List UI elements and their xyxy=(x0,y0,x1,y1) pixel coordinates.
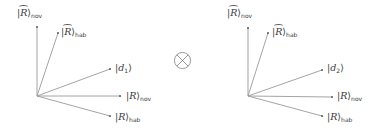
arrow-right-r-hab xyxy=(248,96,322,116)
arrow-left-r-tilde-hab xyxy=(37,33,58,96)
arrow-left-d1 xyxy=(37,69,110,96)
right-vector-diagram xyxy=(248,28,332,116)
ket-subscript: hab xyxy=(341,116,352,123)
label-right-r-tilde-hab: |R⟩hab xyxy=(272,27,297,38)
arrow-right-r-nov xyxy=(248,96,332,97)
tensor-product-icon xyxy=(173,51,192,70)
ket-subscript: 1 xyxy=(124,67,128,74)
ket-subscript: hab xyxy=(75,31,86,38)
label-left-d1: |d1⟩ xyxy=(115,63,132,74)
ket-symbol: R xyxy=(330,111,337,122)
ket-symbol: R xyxy=(275,27,282,37)
ket-subscript: 2 xyxy=(336,67,340,74)
label-left-r-nov: |R⟩nov xyxy=(126,91,151,102)
ket-symbol: R xyxy=(20,8,27,18)
arrow-right-r-tilde-hab xyxy=(248,33,268,96)
left-vector-diagram xyxy=(37,27,120,116)
ket-symbol: R xyxy=(64,27,71,37)
arrow-left-r-hab xyxy=(37,96,110,116)
ket-symbol: R xyxy=(230,8,237,18)
ket-symbol: R xyxy=(340,90,347,101)
label-left-r-hab: |R⟩hab xyxy=(115,112,140,123)
ket-subscript: nov xyxy=(140,95,151,102)
ket-subscript: nov xyxy=(241,12,252,19)
ket-symbol: R xyxy=(129,90,136,101)
ket-subscript: nov xyxy=(31,12,42,19)
arrow-right-d2 xyxy=(248,70,322,96)
label-left-r-tilde-nov: |R⟩nov xyxy=(17,8,42,19)
ket-subscript: hab xyxy=(286,31,297,38)
ket-subscript: nov xyxy=(351,95,362,102)
ket-symbol: R xyxy=(118,111,125,122)
label-right-r-hab: |R⟩hab xyxy=(327,112,352,123)
label-right-r-tilde-nov: |R⟩nov xyxy=(227,8,252,19)
ket-subscript: hab xyxy=(129,116,140,123)
label-right-d2: |d2⟩ xyxy=(327,63,344,74)
label-left-r-tilde-hab: |R⟩hab xyxy=(61,27,86,38)
label-right-r-nov: |R⟩nov xyxy=(337,91,362,102)
